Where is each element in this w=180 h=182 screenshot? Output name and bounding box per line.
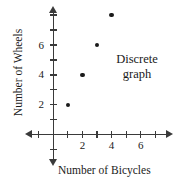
x-axis-tick bbox=[67, 131, 68, 138]
y-axis-title: Number of Wheels bbox=[12, 17, 25, 129]
y-axis-tick bbox=[50, 44, 57, 45]
x-axis-tick-label: 2 bbox=[74, 140, 90, 151]
y-axis-tick bbox=[50, 89, 57, 90]
x-axis-line bbox=[30, 134, 168, 135]
annotation-line-1: Discrete bbox=[104, 52, 170, 67]
y-axis-tick-label: 2 bbox=[30, 99, 44, 110]
x-axis-tick-label: 4 bbox=[104, 140, 120, 151]
y-axis-tick bbox=[50, 59, 57, 60]
y-axis-tick bbox=[50, 104, 57, 105]
y-axis-up-arrow-icon bbox=[49, 6, 57, 13]
y-axis-tick bbox=[50, 29, 57, 30]
data-point bbox=[66, 103, 71, 108]
data-point bbox=[80, 73, 85, 78]
y-axis-tick-label: 6 bbox=[30, 40, 44, 51]
x-axis-tick bbox=[111, 131, 112, 138]
discrete-graph-annotation: Discrete graph bbox=[104, 52, 170, 82]
x-axis-title: Number of Bicycles bbox=[58, 164, 151, 177]
y-axis-tick-label: 4 bbox=[30, 69, 44, 80]
x-axis-tick-label: 6 bbox=[133, 140, 149, 151]
x-axis-right-arrow-icon bbox=[166, 130, 173, 138]
data-point bbox=[109, 13, 114, 18]
y-axis-tick bbox=[50, 14, 57, 15]
discrete-graph-figure: 246642 Number of Bicycles Number of Whee… bbox=[0, 0, 180, 182]
x-axis-tick bbox=[82, 131, 83, 138]
x-axis-tick bbox=[140, 131, 141, 138]
x-axis-tick bbox=[96, 131, 97, 138]
y-axis-down-arrow-icon bbox=[49, 159, 57, 166]
x-axis-tick bbox=[126, 131, 127, 138]
x-axis-tick bbox=[38, 131, 39, 138]
y-axis-tick bbox=[50, 74, 57, 75]
y-axis-tick bbox=[50, 149, 57, 150]
data-point bbox=[95, 43, 100, 48]
x-axis-left-arrow-icon bbox=[25, 130, 32, 138]
x-axis-tick bbox=[155, 131, 156, 138]
annotation-line-2: graph bbox=[104, 67, 170, 82]
y-axis-tick bbox=[50, 119, 57, 120]
y-axis-line bbox=[53, 12, 54, 164]
